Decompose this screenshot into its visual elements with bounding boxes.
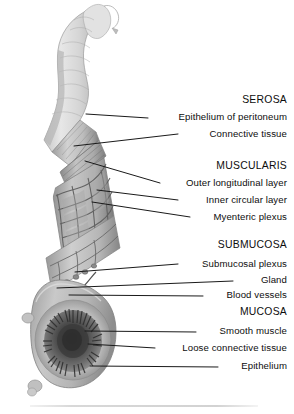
label-smooth-muscle: Smooth muscle: [220, 326, 287, 336]
label-layer: SEROSAEpithelium of peritoneumConnective…: [0, 0, 294, 414]
label-myenteric-plexus: Myenteric plexus: [213, 212, 287, 222]
label-blood-vessels: Blood vessels: [227, 290, 288, 300]
label-submucosal-plexus: Submucosal plexus: [202, 259, 287, 269]
label-outer-longitudinal: Outer longitudinal layer: [186, 178, 287, 188]
label-epithelium: Epithelium: [241, 361, 287, 371]
label-connective-tissue: Connective tissue: [210, 129, 287, 139]
label-muscularis: MUSCULARIS: [216, 161, 287, 171]
label-loose-connective-tissue: Loose connective tissue: [182, 343, 287, 353]
label-mucosa: MUCOSA: [240, 307, 287, 317]
label-gland: Gland: [261, 275, 287, 285]
label-epithelium-peritoneum: Epithelium of peritoneum: [178, 112, 287, 122]
label-serosa: SEROSA: [242, 95, 287, 105]
label-submucosa: SUBMUCOSA: [218, 240, 287, 250]
intestinal-wall-figure: SEROSAEpithelium of peritoneumConnective…: [0, 0, 294, 414]
label-inner-circular: Inner circular layer: [206, 195, 287, 205]
